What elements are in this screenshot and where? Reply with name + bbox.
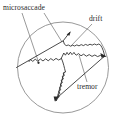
figure-canvas: microsaccade drift tremor: [0, 0, 122, 121]
label-tremor: tremor: [77, 82, 98, 91]
trace-microsaccade-upper: [17, 33, 70, 68]
trace-drift-descent: [62, 59, 66, 72]
arrowhead-far-right-icon: [100, 53, 106, 58]
microsaccade-leader-right-line: [44, 13, 62, 42]
trace-tremor-left: [29, 58, 61, 61]
trace-tremor-right: [74, 53, 103, 57]
eye-movement-figure: microsaccade drift tremor: [0, 0, 122, 121]
label-microsaccade: microsaccade: [3, 3, 45, 12]
drift-leader-line: [71, 24, 92, 46]
arrowhead-bottom-icon: [54, 96, 59, 101]
trace-tremor-centre: [61, 52, 74, 58]
label-drift: drift: [89, 14, 103, 23]
microsaccade-leader-left-line: [22, 13, 39, 62]
trace-origin-dot: [37, 62, 39, 64]
eye-outline-circle: [18, 22, 109, 113]
trace-return-stroke: [56, 73, 64, 101]
